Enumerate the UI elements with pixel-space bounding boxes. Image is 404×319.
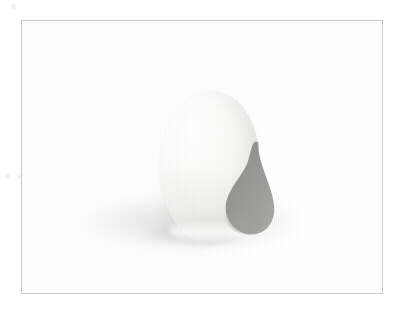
photo-viewport: [0, 0, 404, 319]
paper-speckle-icon: [11, 4, 16, 9]
photo-frame: [21, 20, 383, 294]
paper-speckle-icon: [5, 174, 10, 179]
teardrop-aperture: [224, 141, 276, 245]
photo-canvas: [22, 21, 382, 293]
